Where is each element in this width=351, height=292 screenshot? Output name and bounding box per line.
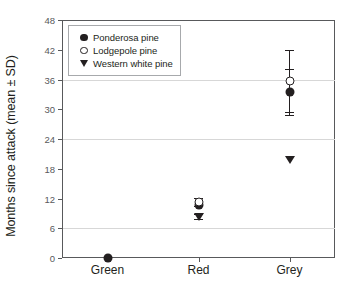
marker-filled-circle-icon <box>103 254 112 263</box>
y-tick-label: 48 <box>44 15 55 26</box>
error-bar-cap-lower <box>285 115 294 116</box>
y-tick-mark <box>58 139 62 140</box>
x-tick-label-red: Red <box>187 263 209 277</box>
legend-item-label: Lodgepole pine <box>93 45 157 56</box>
x-tick-mark-grey <box>290 258 291 262</box>
y-tick-mark <box>58 109 62 110</box>
y-tick-mark <box>58 80 62 81</box>
y-tick-mark <box>58 258 62 259</box>
chart-legend: Ponderosa pineLodgepole pineWestern whit… <box>68 25 181 76</box>
legend-item-ponderosa-pine[interactable]: Ponderosa pine <box>75 31 174 44</box>
error-bar-cap-lower <box>194 206 203 207</box>
y-tick-label: 24 <box>44 134 55 145</box>
marker-filled-triangle-down-icon <box>285 156 295 164</box>
y-tick-mark <box>58 20 62 21</box>
gridline-36 <box>63 80 335 81</box>
y-tick-mark <box>58 50 62 51</box>
x-tick-label-green: Green <box>91 263 124 277</box>
legend-item-lodgepole-pine[interactable]: Lodgepole pine <box>75 44 174 57</box>
y-tick-mark <box>58 228 62 229</box>
marker-filled-triangle-down-icon <box>194 213 204 221</box>
x-tick-label-grey: Grey <box>276 263 302 277</box>
y-tick-label: 30 <box>44 104 55 115</box>
y-tick-label: 6 <box>50 223 55 234</box>
legend-item-western-white-pine[interactable]: Western white pine <box>75 57 174 70</box>
y-tick-label: 42 <box>44 44 55 55</box>
legend-item-label: Western white pine <box>93 58 173 69</box>
axis-top-spine <box>62 20 335 21</box>
y-axis-title: Months since attack (mean ± SD) <box>0 0 22 292</box>
x-tick-mark-red <box>199 258 200 262</box>
triangle-down-icon <box>75 60 93 67</box>
marker-open-circle-icon <box>285 77 294 86</box>
y-tick-mark <box>58 199 62 200</box>
gridline-6 <box>63 228 335 229</box>
y-tick-label: 0 <box>50 253 55 264</box>
filled-circle-icon <box>75 34 93 42</box>
legend-item-label: Ponderosa pine <box>93 32 159 43</box>
y-tick-label: 36 <box>44 74 55 85</box>
y-tick-label: 12 <box>44 193 55 204</box>
gridline-24 <box>63 139 335 140</box>
open-circle-icon <box>75 47 93 55</box>
triangle-down-icon-shape <box>80 60 88 67</box>
marker-open-circle-icon <box>194 198 203 207</box>
y-tick-label: 18 <box>44 163 55 174</box>
chart-figure: Months since attack (mean ± SD) 06121824… <box>0 0 351 292</box>
filled-circle-icon-shape <box>80 34 88 42</box>
error-bar-cap-lower <box>285 112 294 113</box>
error-bar-cap-upper <box>285 50 294 51</box>
y-tick-mark <box>58 169 62 170</box>
open-circle-icon-shape <box>80 47 88 55</box>
